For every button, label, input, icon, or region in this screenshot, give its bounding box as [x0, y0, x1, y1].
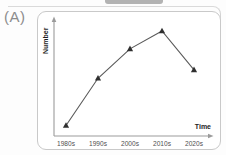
x-axis-arrowhead [208, 134, 214, 139]
x-tick-label-2020s: 2020s [185, 140, 204, 147]
screenshot-root: (A) NumberTime1980s1990s2000s2010s2020s [0, 0, 226, 155]
x-tick-label-1980s: 1980s [57, 140, 76, 147]
figure-label: (A) [4, 8, 26, 25]
data-point-marker-2010s [159, 28, 165, 34]
data-line [66, 31, 194, 126]
data-point-marker-2000s [127, 46, 133, 52]
y-axis-title: Number [42, 27, 49, 54]
x-tick-label-1990s: 1990s [89, 140, 108, 147]
cropped-ui-remnant-bar [105, 0, 163, 4]
x-tick-label-2000s: 2000s [121, 140, 140, 147]
x-axis-title: Time [195, 123, 211, 130]
line-chart: NumberTime1980s1990s2000s2010s2020s [38, 12, 219, 148]
y-axis-arrowhead [52, 17, 57, 23]
chart-panel: NumberTime1980s1990s2000s2010s2020s [37, 11, 221, 150]
x-tick-label-2010s: 2010s [153, 140, 172, 147]
